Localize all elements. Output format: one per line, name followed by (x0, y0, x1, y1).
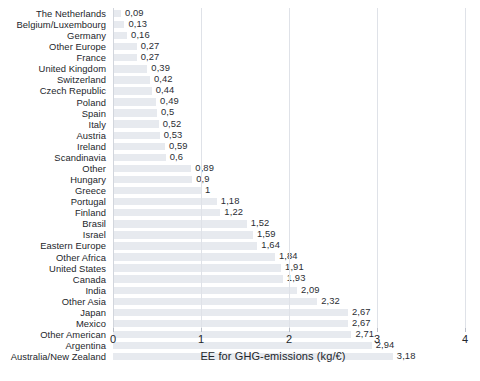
category-label: Portugal (71, 196, 106, 207)
bar (113, 253, 275, 260)
bar-value-label: 0,89 (195, 162, 214, 173)
bar (113, 309, 348, 316)
bar (113, 132, 160, 139)
bar-row: 0,89 (113, 163, 480, 174)
category-label: Brasil (82, 218, 106, 229)
x-tick-label: 3 (374, 332, 380, 346)
bar-value-label: 0,6 (170, 151, 183, 162)
category-label: Eastern Europe (40, 240, 106, 251)
bar-value-label: 2,67 (352, 317, 371, 328)
bar-row: 1,93 (113, 274, 480, 285)
bar-value-label: 0,52 (163, 118, 182, 129)
bar-row: 1,52 (113, 218, 480, 229)
bar-value-label: 0,42 (154, 73, 173, 84)
category-label: India (85, 285, 106, 296)
category-label: Spain (82, 108, 106, 119)
bar (113, 143, 165, 150)
bar-row: 0,9 (113, 174, 480, 185)
bar-value-label: 1,52 (251, 217, 270, 228)
bar (113, 76, 150, 83)
gridline-3 (377, 8, 378, 328)
bar-value-label: 0,49 (160, 95, 179, 106)
bar-value-label: 0,39 (151, 62, 170, 73)
category-label: Other (82, 163, 106, 174)
bar-row: 0,27 (113, 41, 480, 52)
bar (113, 87, 152, 94)
bar-row: 0,16 (113, 30, 480, 41)
bar-value-label: 0,59 (169, 140, 188, 151)
category-label: Other Africa (56, 252, 106, 263)
bar-value-label: 0,5 (161, 106, 174, 117)
category-label: Austria (76, 130, 106, 141)
bar-value-label: 0,53 (164, 129, 183, 140)
bar-row: 0,6 (113, 152, 480, 163)
category-label: Scandinavia (54, 152, 106, 163)
category-label: Poland (77, 97, 107, 108)
gridline-0 (113, 8, 114, 328)
category-label: Other Asia (62, 296, 106, 307)
bar (113, 209, 220, 216)
bar (113, 165, 191, 172)
bar-value-label: 2,32 (321, 295, 340, 306)
bar-row: 2,67 (113, 307, 480, 318)
bar (113, 109, 157, 116)
category-axis-labels: The NetherlandsBelgium/LuxembourgGermany… (0, 8, 110, 328)
bar-value-label: 0,09 (125, 7, 144, 18)
bar-value-label: 0,44 (156, 84, 175, 95)
x-tick-label: 4 (462, 332, 468, 346)
gridline-2 (289, 8, 290, 328)
bar (113, 187, 201, 194)
bar (113, 298, 317, 305)
bar-row: 1,59 (113, 229, 480, 240)
bar (113, 32, 127, 39)
category-label: Germany (67, 30, 106, 41)
bar-value-label: 0,27 (141, 40, 160, 51)
category-label: Ireland (77, 141, 106, 152)
category-label: United States (49, 263, 106, 274)
bar (113, 275, 283, 282)
category-label: Hungary (70, 174, 106, 185)
category-label: Czech Republic (40, 85, 106, 96)
category-label: Other American (40, 329, 106, 340)
bar-value-label: 1,59 (257, 228, 276, 239)
plot-area: 0,090,130,160,270,270,390,420,440,490,50… (113, 8, 465, 328)
bar (113, 176, 192, 183)
x-tick-label: 2 (286, 332, 292, 346)
bar-value-label: 0,9 (196, 173, 209, 184)
category-label: Belgium/Luxembourg (17, 19, 107, 30)
category-label: Other Europe (49, 41, 106, 52)
bar-value-label: 2,67 (352, 306, 371, 317)
bar (113, 287, 297, 294)
bar-row: 1,18 (113, 196, 480, 207)
bar (113, 120, 159, 127)
bar (113, 98, 156, 105)
category-label: The Netherlands (36, 8, 106, 19)
bar-row: 0,59 (113, 141, 480, 152)
bar (113, 65, 147, 72)
bar-value-label: 1,22 (224, 206, 243, 217)
category-label: Italy (89, 119, 106, 130)
bar (113, 154, 166, 161)
gridline-1 (201, 8, 202, 328)
category-label: Israel (83, 229, 106, 240)
bar (113, 43, 137, 50)
bar (113, 320, 348, 327)
x-axis-title-text: EE for GHG-emissions (kg/€) (200, 349, 345, 363)
bar (113, 242, 257, 249)
bar (113, 21, 124, 28)
category-label: Mexico (76, 318, 106, 329)
x-axis-title: EE for GHG-emissions (kg/€) (0, 349, 480, 363)
bar (113, 231, 253, 238)
category-label: France (77, 52, 106, 63)
category-label: Japan (80, 307, 106, 318)
bar (113, 220, 247, 227)
bar-row: 2,09 (113, 285, 480, 296)
bar-row: 1 (113, 185, 480, 196)
gridline-4 (465, 8, 466, 328)
bar-row: 0,09 (113, 8, 480, 19)
x-axis: 01234 (113, 328, 465, 350)
bar (113, 54, 137, 61)
bar-row: 2,32 (113, 296, 480, 307)
category-label: Greece (75, 185, 106, 196)
category-label: Switzerland (57, 74, 106, 85)
